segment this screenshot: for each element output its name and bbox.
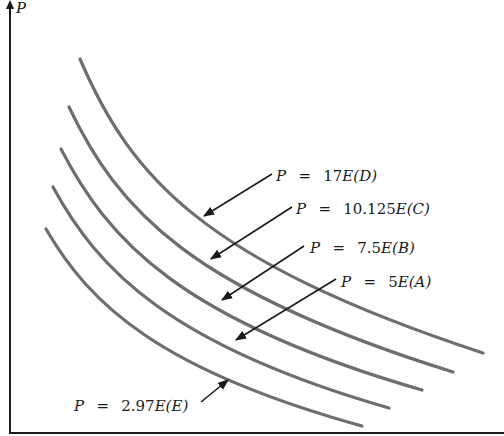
label-d-var: E xyxy=(341,167,353,185)
label-a-lhs: P xyxy=(340,273,352,291)
arrow-e xyxy=(201,380,228,402)
label-e: P = 2.97E(E) xyxy=(73,397,188,415)
arrow-d xyxy=(204,174,272,216)
label-c: P = 10.125E(C) xyxy=(295,200,430,218)
y-axis-arrow-icon xyxy=(6,0,14,9)
label-b-coef: 7.5 xyxy=(357,239,381,257)
y-axis-label: P xyxy=(15,0,26,17)
arrow-b xyxy=(222,246,304,300)
label-d-eq: = xyxy=(291,167,319,185)
label-a-coef: 5 xyxy=(388,273,398,291)
label-d: P = 17E(D) xyxy=(275,167,377,185)
label-b-lhs: P xyxy=(309,239,321,257)
arrow-c xyxy=(211,207,292,259)
label-d-tag: (D) xyxy=(353,167,377,185)
label-d-coef: 17 xyxy=(323,167,342,185)
label-c-eq: = xyxy=(311,200,339,218)
label-a: P = 5E(A) xyxy=(340,273,431,291)
label-e-var: E xyxy=(154,397,166,415)
label-c-var: E xyxy=(395,200,407,218)
label-a-eq: = xyxy=(356,273,384,291)
isoquant-diagram: P P = 17E(D) P = 10.125E(C) P = 7.5 xyxy=(0,0,504,436)
label-b-tag: (B) xyxy=(392,239,415,257)
label-e-lhs: P xyxy=(73,397,85,415)
label-a-tag: (A) xyxy=(409,273,432,291)
label-c-tag: (C) xyxy=(407,200,430,218)
label-b: P = 7.5E(B) xyxy=(309,239,415,257)
label-a-var: E xyxy=(397,273,409,291)
label-b-eq: = xyxy=(325,239,353,257)
label-d-lhs: P xyxy=(275,167,287,185)
label-e-eq: = xyxy=(89,397,117,415)
curves xyxy=(46,59,483,426)
label-e-coef: 2.97 xyxy=(121,397,154,415)
label-b-var: E xyxy=(380,239,392,257)
label-e-tag: (E) xyxy=(166,397,189,415)
label-c-coef: 10.125 xyxy=(343,200,396,218)
arrow-a xyxy=(236,279,336,340)
label-c-lhs: P xyxy=(295,200,307,218)
